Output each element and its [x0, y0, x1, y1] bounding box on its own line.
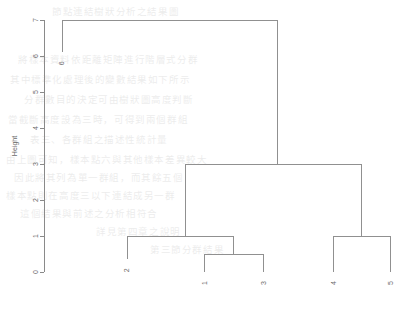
dendrogram-canvas: 01234567 Height 621345: [0, 0, 420, 327]
y-tick-label-5: 5: [32, 90, 39, 94]
leaf-label-6: 6: [59, 61, 66, 65]
y-tick-label-0: 0: [32, 270, 39, 274]
y-tick-label-6: 6: [32, 54, 39, 58]
leaf-label-2: 2: [124, 268, 131, 272]
dendrogram-branches: [62, 20, 390, 272]
leaf-label-5: 5: [387, 281, 394, 285]
leaf-label-4: 4: [330, 281, 337, 285]
leaf-label-3: 3: [260, 281, 267, 285]
dendrogram-plot: 節點連結樹狀分析之結果圖將樣本資料依距離矩陣進行階層式分群其中標準化處理後的變數…: [0, 0, 420, 327]
y-tick-label-4: 4: [32, 126, 39, 130]
y-tick-label-7: 7: [32, 18, 39, 22]
y-tick-label-1: 1: [32, 234, 39, 238]
y-tick-label-3: 3: [32, 162, 39, 166]
y-axis: 01234567 Height: [11, 18, 45, 274]
y-axis-title: Height: [11, 136, 19, 156]
dendrogram-leaf-labels: 621345: [59, 61, 394, 285]
y-axis-ticks: [40, 20, 44, 272]
y-tick-label-2: 2: [32, 198, 39, 202]
y-axis-tick-labels: 01234567: [32, 18, 39, 274]
leaf-label-1: 1: [201, 281, 208, 285]
